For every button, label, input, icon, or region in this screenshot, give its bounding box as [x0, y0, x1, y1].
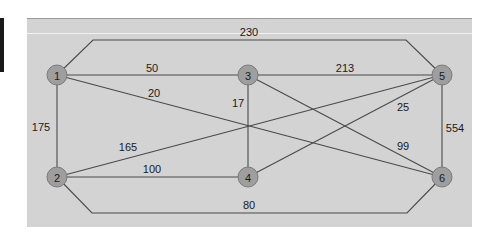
weight-1-5: 230 — [240, 26, 258, 38]
weight-1-2: 175 — [32, 121, 50, 133]
node-4: 4 — [238, 167, 258, 187]
node-2: 2 — [47, 167, 67, 187]
weight-3-5: 213 — [336, 62, 354, 74]
node-4-label: 4 — [245, 172, 251, 184]
weight-2-6: 80 — [243, 199, 255, 211]
node-2-label: 2 — [54, 172, 60, 184]
node-6: 6 — [432, 167, 452, 187]
weight-5-6: 554 — [446, 122, 464, 134]
node-1: 1 — [47, 65, 67, 85]
weight-2-5: 165 — [119, 141, 137, 153]
node-5-label: 5 — [439, 70, 445, 82]
weight-2-4: 100 — [143, 163, 161, 175]
node-3: 3 — [238, 65, 258, 85]
graph-diagram: 230 50 20 175 213 17 99 165 25 100 554 8… — [0, 0, 493, 238]
weight-4-5: 25 — [397, 101, 409, 113]
node-5: 5 — [432, 65, 452, 85]
node-1-label: 1 — [54, 70, 60, 82]
weight-3-4: 17 — [232, 97, 244, 109]
node-6-label: 6 — [439, 172, 445, 184]
weight-1-3: 50 — [146, 62, 158, 74]
weight-1-6: 20 — [148, 87, 160, 99]
weight-3-6: 99 — [397, 140, 409, 152]
node-3-label: 3 — [245, 70, 251, 82]
